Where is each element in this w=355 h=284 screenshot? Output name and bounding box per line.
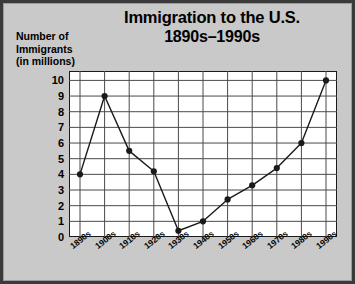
plot-region: 012345678910 1890s1900s1910s1920s1930s19… <box>69 71 337 237</box>
chart-title: Immigration to the U.S. 1890s–1990s <box>81 8 343 46</box>
y-tick-label: 7 <box>42 121 64 133</box>
y-tick-label: 10 <box>42 74 64 86</box>
y-axis-label-line-1: Number of <box>16 30 111 43</box>
y-tick-label: 0 <box>42 231 64 243</box>
y-axis-label: Number of Immigrants (in millions) <box>16 30 111 68</box>
chart-title-line-2: 1890s–1990s <box>81 27 343 46</box>
y-tick-label: 5 <box>42 153 64 165</box>
chart-figure: Immigration to the U.S. 1890s–1990s Numb… <box>0 0 355 284</box>
data-series <box>69 71 337 237</box>
y-tick-label: 1 <box>42 215 64 227</box>
y-tick-label: 6 <box>42 137 64 149</box>
y-tick-label: 4 <box>42 168 64 180</box>
y-axis-label-line-3: (in millions) <box>16 55 111 68</box>
y-tick-label: 2 <box>42 200 64 212</box>
y-tick-label: 8 <box>42 106 64 118</box>
chart-title-line-1: Immigration to the U.S. <box>81 8 343 27</box>
y-axis-label-line-2: Immigrants <box>16 43 111 56</box>
y-tick-label: 3 <box>42 184 64 196</box>
y-tick-label: 9 <box>42 90 64 102</box>
